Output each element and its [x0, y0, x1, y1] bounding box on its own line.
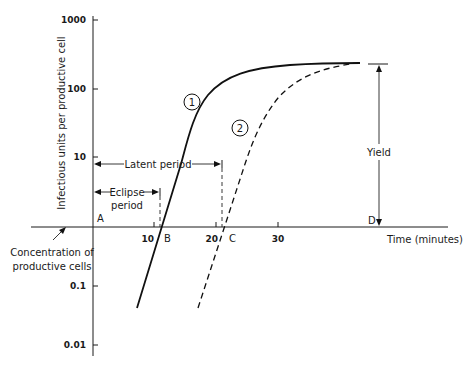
- one-step-growth-chart: 1000 100 10 0.1 0.01 Infectious units pe…: [0, 0, 467, 370]
- point-d-label: D: [368, 215, 376, 226]
- x-axis: 10 20 30 Time (minutes): [31, 222, 463, 245]
- y-tick-label: 10: [73, 152, 86, 162]
- latent-period-label: Latent period: [124, 159, 191, 170]
- y-axis: 1000 100 10 0.1 0.01 Infectious units pe…: [56, 15, 98, 356]
- eclipse-period-label-2: period: [111, 200, 143, 211]
- baseline-note-line1: Concentration of: [10, 247, 94, 258]
- x-axis-label: Time (minutes): [386, 234, 463, 245]
- baseline-note: Concentration of productive cells: [10, 227, 94, 272]
- yield-label: Yield: [366, 147, 391, 158]
- y-tick-label: 0.1: [70, 281, 86, 291]
- y-tick-label: 0.01: [64, 340, 86, 350]
- curve-1-marker: 1: [184, 94, 200, 110]
- svg-text:2: 2: [237, 123, 243, 134]
- point-c-label: C: [229, 233, 236, 244]
- point-a-label: A: [97, 213, 104, 224]
- yield-annotation: Yield: [366, 64, 391, 226]
- y-tick-label: 1000: [61, 15, 86, 25]
- eclipse-period-label: Eclipse: [109, 187, 144, 198]
- x-tick-label: 20: [205, 234, 218, 244]
- x-tick-label: 10: [141, 234, 154, 244]
- eclipse-period-annotation: Eclipse period: [94, 187, 160, 227]
- point-b-label: B: [164, 233, 171, 244]
- y-tick-label: 100: [67, 84, 86, 94]
- baseline-note-line2: productive cells: [13, 261, 92, 272]
- svg-text:1: 1: [189, 97, 195, 108]
- y-axis-label: Infectious units per productive cell: [56, 36, 67, 209]
- x-tick-label: 30: [272, 234, 285, 244]
- curve-2-marker: 2: [232, 120, 248, 136]
- curve-1: [137, 63, 360, 308]
